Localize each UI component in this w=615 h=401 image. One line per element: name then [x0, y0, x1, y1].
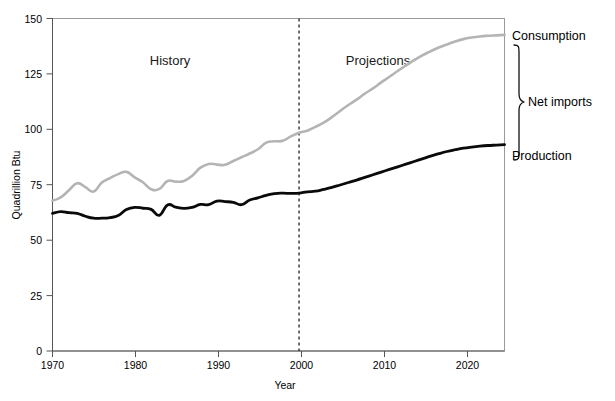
chart-figure: 150 125 100 75 50 25 0 Quadrillion Btu 1…: [0, 0, 615, 401]
series-line-production: [53, 145, 505, 219]
net-imports-series-label: Net imports: [528, 95, 592, 109]
plot-frame: [53, 19, 505, 352]
x-axis-title: Year: [274, 379, 296, 391]
y-tick-label-50: 50: [30, 234, 42, 246]
y-axis-title: Quadrillion Btu: [10, 150, 22, 219]
x-tick-label-2020: 2020: [456, 359, 480, 371]
x-tick-label-2000: 2000: [290, 359, 314, 371]
y-tick-label-25: 25: [30, 290, 42, 302]
y-tick-marks: [47, 19, 53, 352]
x-tick-marks: [53, 351, 468, 357]
net-imports-brace-icon: [514, 45, 524, 160]
x-tick-label-2010: 2010: [373, 359, 397, 371]
y-tick-label-150: 150: [24, 13, 42, 25]
y-tick-label-100: 100: [24, 123, 42, 135]
x-tick-label-1980: 1980: [124, 359, 148, 371]
history-label: History: [150, 53, 191, 68]
projections-label: Projections: [346, 53, 411, 68]
consumption-series-label: Consumption: [512, 29, 586, 43]
x-tick-label-1990: 1990: [207, 359, 231, 371]
y-tick-label-0: 0: [36, 345, 42, 357]
series-line-consumption: [53, 35, 505, 201]
line-chart: 150 125 100 75 50 25 0 Quadrillion Btu 1…: [0, 0, 615, 401]
y-tick-label-125: 125: [24, 68, 42, 80]
x-tick-label-1970: 1970: [41, 359, 65, 371]
production-series-label: Production: [512, 149, 572, 163]
y-tick-label-75: 75: [30, 179, 42, 191]
